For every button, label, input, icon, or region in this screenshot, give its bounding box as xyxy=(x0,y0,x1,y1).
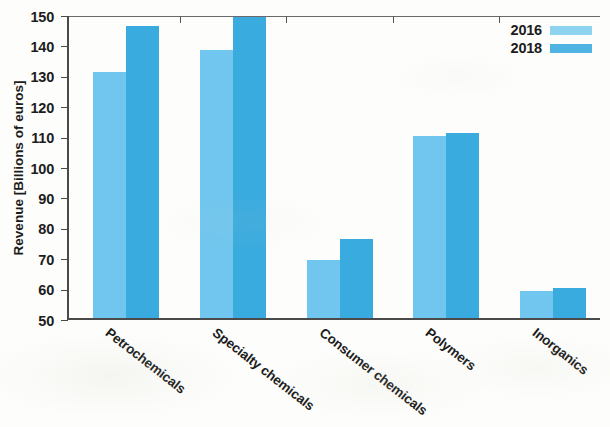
y-tick-label-140: 140 xyxy=(30,39,54,55)
x-axis-label-consumer-chemicals: Consumer chemicals xyxy=(316,325,429,418)
legend-label-2016: 2016 xyxy=(511,22,542,38)
y-tick-label-70: 70 xyxy=(38,252,54,268)
y-tick-80: 80 xyxy=(61,229,68,230)
x-axis-label-specialty-chemicals: Specialty chemicals xyxy=(210,325,317,413)
x-axis-label-petrochemicals: Petrochemicals xyxy=(103,325,189,397)
chart-legend: 2016 2018 xyxy=(511,22,592,56)
bar-2016 xyxy=(93,72,126,318)
x-tick xyxy=(180,16,181,23)
legend-label-2018: 2018 xyxy=(511,40,542,56)
y-tick-label-50: 50 xyxy=(38,313,54,329)
y-tick-50: 50 xyxy=(61,320,68,321)
y-axis-title-container: Revenue [Billions of euros] xyxy=(16,0,17,336)
y-tick-100: 100 xyxy=(61,168,68,169)
bar-group xyxy=(307,16,373,318)
bar-2016 xyxy=(413,136,446,318)
x-tick xyxy=(286,16,287,23)
bar-group xyxy=(413,16,479,318)
bar-2018 xyxy=(553,288,586,318)
bar-2016 xyxy=(307,260,340,318)
bar-2018 xyxy=(340,239,373,318)
bar-2018 xyxy=(446,133,479,318)
bar-group xyxy=(93,16,159,318)
legend-swatch-2018 xyxy=(550,44,592,53)
y-tick-label-120: 120 xyxy=(30,100,54,116)
x-tick xyxy=(393,16,394,23)
plot-area: 1501401301201101009080706050 2016 2018 xyxy=(67,16,600,320)
bar-2016 xyxy=(200,50,233,318)
y-tick-110: 110 xyxy=(61,138,68,139)
y-tick-label-130: 130 xyxy=(30,69,54,85)
y-tick-label-150: 150 xyxy=(30,9,54,25)
y-tick-label-110: 110 xyxy=(31,130,54,146)
y-tick-130: 130 xyxy=(61,77,68,78)
legend-item-2016: 2016 xyxy=(511,22,592,38)
bar-2016 xyxy=(520,291,553,318)
x-axis-label-inorganics: Inorganics xyxy=(529,325,590,378)
bar-2018 xyxy=(233,17,266,318)
y-tick-label-100: 100 xyxy=(30,161,54,177)
y-tick-120: 120 xyxy=(61,107,68,108)
chart-figure: Revenue [Billions of euros] 150140130120… xyxy=(0,0,610,427)
x-tick xyxy=(499,16,500,23)
y-tick-90: 90 xyxy=(61,198,68,199)
bar-group xyxy=(200,16,266,318)
x-axis-label-polymers: Polymers xyxy=(423,325,479,373)
y-tick-label-60: 60 xyxy=(38,282,54,298)
y-tick-60: 60 xyxy=(61,290,68,291)
legend-item-2018: 2018 xyxy=(511,40,592,56)
y-tick-140: 140 xyxy=(61,46,68,47)
y-tick-70: 70 xyxy=(61,259,68,260)
y-tick-label-80: 80 xyxy=(38,221,54,237)
legend-swatch-2016 xyxy=(550,26,592,35)
bar-group xyxy=(520,16,586,318)
bar-2018 xyxy=(126,26,159,318)
y-tick-label-90: 90 xyxy=(38,191,54,207)
y-tick-150: 150 xyxy=(61,16,68,17)
axis-spine-bottom xyxy=(67,318,600,320)
y-axis-title: Revenue [Billions of euros] xyxy=(11,81,26,256)
